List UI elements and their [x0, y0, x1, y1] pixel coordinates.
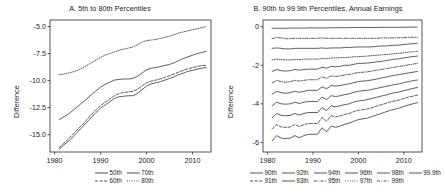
legend-row: 60th80th	[95, 177, 159, 185]
legend-label: 98th	[392, 169, 404, 177]
legend-item-96th: 96th	[345, 169, 372, 177]
legend-row: 90th92th94th96th98th99.9th	[250, 169, 445, 177]
legend-key-91th	[250, 178, 263, 184]
svg-text:0: 0	[255, 22, 259, 31]
legend-item-91th: 91th	[250, 177, 277, 185]
svg-text:-4: -4	[253, 99, 259, 108]
legend-item-93th: 93th	[282, 177, 309, 185]
svg-text:1990: 1990	[93, 156, 109, 165]
svg-text:2010: 2010	[396, 156, 412, 165]
legend-label: 90th	[265, 169, 277, 177]
legend-key-97th	[345, 178, 358, 184]
series-line-97th	[272, 51, 417, 59]
legend-key-70th	[127, 170, 140, 176]
legend-item-99.9th: 99.9th	[409, 169, 441, 177]
legend-label: 96th	[360, 169, 372, 177]
legend-label: 93th	[296, 177, 308, 185]
legend-item-92th: 92th	[282, 169, 309, 177]
legend-key-99th	[377, 178, 390, 184]
legend-label: 91th	[265, 177, 277, 185]
svg-text:1980: 1980	[47, 156, 63, 165]
series-line-60th	[59, 65, 206, 147]
svg-text:2000: 2000	[350, 156, 366, 165]
series-line-94th	[272, 71, 417, 94]
legend-key-60th	[95, 178, 108, 184]
svg-text:1990: 1990	[305, 156, 321, 165]
legend-item-98th: 98th	[377, 169, 404, 177]
legend-label: 80th	[141, 177, 153, 185]
legend-row: 91th93th95th97th99th	[250, 177, 445, 185]
panel-b: B. 90th to 99.9th Percentiles, Annual Ea…	[218, 0, 438, 195]
legend-label: 97th	[360, 177, 372, 185]
legend-item-95th: 95th	[314, 177, 341, 185]
svg-text:2010: 2010	[185, 156, 201, 165]
legend-key-50th	[95, 170, 108, 176]
legend-label: 60th	[110, 177, 122, 185]
svg-text:2000: 2000	[139, 156, 155, 165]
series-line-95th	[272, 63, 417, 83]
legend-label: 92th	[296, 169, 308, 177]
series-line-98th	[272, 43, 417, 49]
legend-key-90th	[250, 170, 263, 176]
legend-item-97th: 97th	[345, 177, 372, 185]
legend-key-96th	[345, 170, 358, 176]
svg-text:-7.5: -7.5	[34, 49, 46, 58]
legend-item-99th: 99th	[377, 177, 404, 185]
panel-b-plot: 0-2-4-61980199020002010	[218, 0, 440, 195]
svg-text:-10.0: -10.0	[30, 76, 46, 85]
svg-text:-15.0: -15.0	[30, 130, 46, 139]
svg-text:-5.0: -5.0	[34, 22, 46, 31]
legend-item-70th: 70th	[127, 169, 154, 177]
legend-item-60th: 60th	[95, 177, 122, 185]
series-line-50th	[59, 68, 206, 150]
legend-key-98th	[377, 170, 390, 176]
svg-text:-2: -2	[253, 61, 259, 70]
legend-item-90th: 90th	[250, 169, 277, 177]
panel-a-legend: 50th70th60th80th	[95, 169, 159, 185]
svg-text:1980: 1980	[260, 156, 276, 165]
legend-label: 94th	[328, 169, 340, 177]
legend-item-50th: 50th	[95, 169, 122, 177]
series-line-99th	[272, 37, 417, 38]
panel-a-plot: -5.0-7.5-10.0-12.5-15.01980199020002010	[0, 0, 220, 195]
legend-label: 99.9th	[423, 169, 441, 177]
svg-text:-12.5: -12.5	[30, 103, 46, 112]
legend-key-95th	[314, 178, 327, 184]
legend-label: 99th	[392, 177, 404, 185]
legend-label: 50th	[110, 169, 122, 177]
svg-text:-6: -6	[253, 138, 259, 147]
series-line-96th	[272, 56, 417, 71]
legend-item-80th: 80th	[127, 177, 154, 185]
panel-b-legend: 90th92th94th96th98th99.9th91th93th95th97…	[250, 169, 445, 185]
series-line-80th	[59, 26, 206, 74]
series-line-90th	[272, 103, 417, 141]
legend-key-93th	[282, 178, 295, 184]
legend-key-80th	[127, 178, 140, 184]
legend-label: 95th	[328, 177, 340, 185]
series-line-70th	[59, 51, 206, 119]
legend-key-94th	[314, 170, 327, 176]
series-line-99.9th	[272, 27, 417, 28]
legend-key-99.9th	[409, 170, 422, 176]
legend-item-94th: 94th	[314, 169, 341, 177]
legend-row: 50th70th	[95, 169, 159, 177]
legend-key-92th	[282, 170, 295, 176]
panel-a: A. 5th to 80th Percentiles Difference -5…	[0, 0, 220, 195]
legend-label: 70th	[141, 169, 153, 177]
